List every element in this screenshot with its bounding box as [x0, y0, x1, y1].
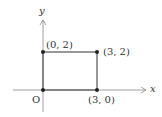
- x-axis-label: x: [150, 84, 156, 94]
- point-label-0-2: (0, 2): [46, 40, 73, 50]
- point-label-3-2: (3, 2): [103, 47, 130, 57]
- point-origin: [41, 88, 45, 92]
- coordinate-plane: [0, 0, 162, 117]
- point-3-2: [95, 50, 99, 54]
- rectangle: [43, 52, 97, 90]
- y-axis-label: y: [39, 6, 45, 16]
- origin-label: O: [32, 95, 40, 105]
- point-label-3-0: (3, 0): [88, 95, 115, 105]
- point-3-0: [95, 88, 99, 92]
- point-0-2: [41, 50, 45, 54]
